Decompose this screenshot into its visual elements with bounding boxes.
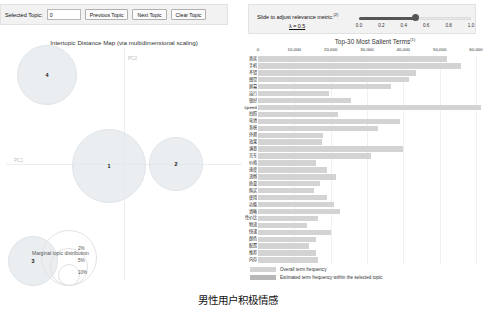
term-label[interactable]: 外观 — [240, 132, 257, 138]
bar-row[interactable]: speed — [240, 105, 476, 112]
term-label[interactable]: 内存 — [240, 257, 257, 263]
slider-handle[interactable] — [412, 14, 419, 21]
bar-row[interactable]: 外观 — [240, 132, 476, 139]
bar-chart-title: Top-30 Most Salient Terms(1) — [280, 37, 470, 45]
bar-row[interactable]: 功能 — [240, 202, 476, 209]
bar-overall-frequency[interactable] — [258, 91, 329, 96]
term-label[interactable]: 使用 — [240, 195, 257, 201]
previous-topic-button[interactable]: Previous Topic — [85, 9, 129, 20]
bar-row[interactable]: 物流 — [240, 222, 476, 229]
bar-row[interactable]: 清晰 — [240, 209, 476, 216]
bar-row[interactable]: 不错 — [240, 70, 476, 77]
clear-topic-button[interactable]: Clear Topic — [171, 9, 207, 20]
bar-overall-frequency[interactable] — [258, 167, 327, 172]
term-label[interactable]: 购买 — [240, 188, 257, 194]
term-label[interactable]: 屏幕 — [240, 84, 257, 90]
bar-overall-frequency[interactable] — [258, 139, 322, 144]
bar-overall-frequency[interactable] — [258, 119, 400, 124]
bar-row[interactable]: 手机 — [240, 63, 476, 70]
bar-row[interactable]: 颜色 — [240, 236, 476, 243]
bar-overall-frequency[interactable] — [258, 174, 336, 179]
bar-row[interactable]: 京东 — [240, 153, 476, 160]
x-tick-30,000: 30,000 — [360, 47, 373, 52]
bar-overall-frequency[interactable] — [258, 98, 351, 103]
bar-overall-frequency[interactable] — [258, 84, 391, 89]
term-label[interactable]: 快递 — [240, 229, 257, 235]
bar-overall-frequency[interactable] — [258, 202, 334, 207]
term-label[interactable]: 很好 — [240, 98, 257, 104]
bar-overall-frequency[interactable] — [258, 216, 318, 221]
bar-row[interactable]: 购买 — [240, 188, 476, 195]
term-label[interactable]: 配置 — [240, 243, 257, 249]
term-label[interactable]: 手机 — [240, 63, 257, 69]
bar-row[interactable]: 电池 — [240, 118, 476, 125]
bar-overall-frequency[interactable] — [258, 209, 340, 214]
relevance-slider[interactable]: 0.00.20.40.60.81.0 — [359, 13, 471, 31]
bar-row[interactable]: 系统 — [240, 125, 476, 132]
bar-overall-frequency[interactable] — [258, 181, 320, 186]
bar-row[interactable]: 效果 — [240, 139, 476, 146]
bar-row[interactable]: 使用 — [240, 195, 476, 202]
term-label[interactable]: 推荐 — [240, 250, 257, 256]
bar-chart-plot[interactable]: 喜欢手机不错感觉屏幕运行很好speed拍照电池系统外观效果满意京东价格速度流畅质… — [240, 56, 476, 264]
term-label[interactable]: 价格 — [240, 160, 257, 166]
bar-overall-frequency[interactable] — [258, 257, 318, 262]
bar-row[interactable]: 喜欢 — [240, 56, 476, 63]
bar-overall-frequency[interactable] — [258, 195, 327, 200]
term-label[interactable]: 清晰 — [240, 209, 257, 215]
bar-row[interactable]: 感觉 — [240, 77, 476, 84]
bar-overall-frequency[interactable] — [258, 77, 409, 82]
bar-row[interactable]: 满意 — [240, 146, 476, 153]
term-label[interactable]: 不错 — [240, 70, 257, 76]
bar-overall-frequency[interactable] — [258, 70, 416, 75]
next-topic-button[interactable]: Next Topic — [132, 9, 166, 20]
term-label[interactable]: speed — [240, 105, 257, 111]
bar-overall-frequency[interactable] — [258, 146, 403, 151]
bar-overall-frequency[interactable] — [258, 243, 309, 248]
mtd-tick-5pct: 5% — [78, 258, 85, 263]
bar-overall-frequency[interactable] — [258, 237, 316, 242]
term-label[interactable]: 效果 — [240, 139, 257, 145]
bar-overall-frequency[interactable] — [258, 223, 307, 228]
term-label[interactable]: 拍照 — [240, 111, 257, 117]
bar-row[interactable]: 性价比 — [240, 215, 476, 222]
bar-overall-frequency[interactable] — [258, 160, 316, 165]
bar-overall-frequency[interactable] — [258, 112, 338, 117]
bar-overall-frequency[interactable] — [258, 56, 447, 61]
term-label[interactable]: 物流 — [240, 222, 257, 228]
bar-row[interactable]: 流畅 — [240, 174, 476, 181]
bar-row[interactable]: 推荐 — [240, 250, 476, 257]
bar-overall-frequency[interactable] — [258, 230, 331, 235]
bar-overall-frequency[interactable] — [258, 126, 378, 131]
bar-row[interactable]: 速度 — [240, 167, 476, 174]
term-label[interactable]: 京东 — [240, 153, 257, 159]
term-label[interactable]: 功能 — [240, 202, 257, 208]
term-label[interactable]: 颜色 — [240, 236, 257, 242]
term-label[interactable]: 质量 — [240, 181, 257, 187]
term-label[interactable]: 速度 — [240, 167, 257, 173]
bar-row[interactable]: 内存 — [240, 257, 476, 264]
bar-row[interactable]: 质量 — [240, 181, 476, 188]
bar-row[interactable]: 配置 — [240, 243, 476, 250]
bar-overall-frequency[interactable] — [258, 250, 316, 255]
bar-row[interactable]: 价格 — [240, 160, 476, 167]
bar-overall-frequency[interactable] — [258, 153, 371, 158]
bar-overall-frequency[interactable] — [258, 63, 461, 68]
bar-overall-frequency[interactable] — [258, 133, 323, 138]
term-label[interactable]: 电池 — [240, 118, 257, 124]
bar-row[interactable]: 运行 — [240, 91, 476, 98]
bar-row[interactable]: 拍照 — [240, 111, 476, 118]
bar-overall-frequency[interactable] — [258, 105, 481, 110]
bar-row[interactable]: 很好 — [240, 98, 476, 105]
term-label[interactable]: 喜欢 — [240, 56, 257, 62]
bar-overall-frequency[interactable] — [258, 188, 314, 193]
term-label[interactable]: 感觉 — [240, 77, 257, 83]
term-label[interactable]: 系统 — [240, 125, 257, 131]
term-label[interactable]: 性价比 — [240, 215, 257, 221]
bar-row[interactable]: 屏幕 — [240, 84, 476, 91]
selected-topic-input[interactable]: 0 — [47, 9, 81, 20]
term-label[interactable]: 流畅 — [240, 174, 257, 180]
term-label[interactable]: 运行 — [240, 91, 257, 97]
bar-row[interactable]: 快递 — [240, 229, 476, 236]
term-label[interactable]: 满意 — [240, 146, 257, 152]
